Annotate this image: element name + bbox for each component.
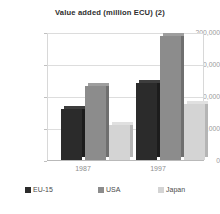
bar-eu15-1997 [136, 83, 157, 160]
bar-top [187, 101, 208, 104]
x-axis-label-1987: 1987 [58, 164, 108, 173]
legend-item-usa[interactable]: USA [98, 186, 120, 194]
y-axis-tick-0 [44, 161, 47, 162]
bar-top [112, 122, 133, 125]
x-axis-line [47, 160, 204, 161]
bar-side [205, 101, 208, 157]
bar-usa-1997 [160, 36, 181, 160]
chart-container: Value added (million ECU) (2) 200,000 15… [0, 0, 220, 214]
legend-item-japan[interactable]: Japan [158, 186, 185, 194]
chart-legend: EU-15 USA Japan [0, 186, 220, 200]
legend-swatch-icon [158, 187, 164, 193]
bar-face [61, 109, 82, 160]
bar-side [130, 122, 133, 157]
legend-swatch-icon [98, 187, 104, 193]
bar-japan-1987 [109, 125, 130, 160]
bar-japan-1997 [184, 104, 205, 160]
bar-top [139, 80, 160, 83]
legend-swatch-icon [25, 187, 31, 193]
legend-label: Japan [166, 186, 185, 194]
x-axis-label-1997: 1997 [133, 164, 183, 173]
bar-usa-1987 [85, 86, 106, 160]
plot-area [47, 33, 204, 161]
chart-title: Value added (million ECU) (2) [0, 8, 220, 18]
bar-eu15-1987 [61, 109, 82, 160]
bar-face [109, 125, 130, 160]
bar-face [160, 36, 181, 160]
bar-top [64, 106, 85, 109]
bar-face [85, 86, 106, 160]
bar-face [136, 83, 157, 160]
bar-top [163, 33, 184, 36]
legend-label: USA [106, 186, 120, 194]
bar-top [88, 83, 109, 86]
legend-label: EU-15 [33, 186, 53, 194]
bar-face [184, 104, 205, 160]
legend-item-eu15[interactable]: EU-15 [25, 186, 53, 194]
